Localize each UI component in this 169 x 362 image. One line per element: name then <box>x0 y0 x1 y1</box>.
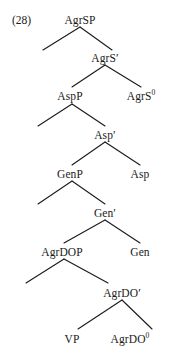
example-number-label: (28) <box>12 14 31 26</box>
branch-b7-left <box>26 259 64 283</box>
branch-b7-right <box>64 259 108 283</box>
tree-node-agrdo-bar-prime: ′ <box>138 286 141 300</box>
tree-branch-lines <box>0 0 169 362</box>
tree-node-asp-bar: Asp′ <box>94 129 116 141</box>
tree-node-agrsp: AgrSP <box>64 14 95 26</box>
tree-node-vp: VP <box>65 333 80 345</box>
tree-node-asp-bar-prime: ′ <box>113 128 116 142</box>
tree-node-agrs0: AgrS0 <box>127 90 156 102</box>
branch-b4-left <box>72 142 105 165</box>
tree-node-agrs-bar: AgrS′ <box>91 52 118 64</box>
branch-b5-left <box>38 181 72 204</box>
branch-b8-right <box>122 300 152 329</box>
branch-b1-right <box>80 27 112 50</box>
tree-node-gen-bar: Gen′ <box>94 207 116 219</box>
branch-b2-right <box>105 65 141 87</box>
branch-b5-right <box>72 181 105 204</box>
branch-b4-right <box>105 142 140 165</box>
syntax-tree-figure: (28) AgrSPAgrS′AspPAgrS0Asp′GenPAspGen′A… <box>0 0 169 362</box>
tree-node-gen: Gen <box>130 246 149 258</box>
branch-b8-left <box>78 300 122 329</box>
tree-node-aspp: AspP <box>57 90 82 102</box>
branch-b6-right <box>105 220 140 243</box>
tree-node-agrdo-bar: AgrDO′ <box>103 287 141 299</box>
tree-node-agrs0-superscript: 0 <box>151 88 155 97</box>
branch-b2-left <box>72 65 105 87</box>
branch-b6-left <box>64 220 105 243</box>
tree-node-asp: Asp <box>131 168 150 180</box>
tree-node-gen-bar-prime: ′ <box>113 206 116 220</box>
tree-node-genp: GenP <box>57 168 83 180</box>
branch-b3-right <box>72 104 105 126</box>
tree-node-agrdo0: AgrDO0 <box>111 333 150 345</box>
branch-b1-left <box>43 27 80 50</box>
tree-node-agrdop: AgrDOP <box>41 246 83 258</box>
branch-b3-left <box>38 104 72 126</box>
tree-node-agrs-bar-prime: ′ <box>116 51 119 65</box>
tree-node-agrdo0-superscript: 0 <box>146 331 150 340</box>
